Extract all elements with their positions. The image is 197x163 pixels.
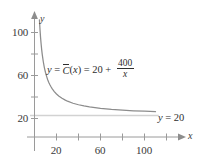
equation-paren-close: ) bbox=[78, 64, 82, 75]
y-tick-label-60: 60 bbox=[2, 70, 28, 81]
asymptote-annotation: y = 20 bbox=[158, 112, 184, 123]
overbar-stroke bbox=[63, 64, 69, 65]
equation-constant: 20 bbox=[92, 64, 103, 75]
equation-equals-1: = bbox=[54, 64, 60, 75]
curve-equation-annotation: y = C ( x ) = 20 + 400 x bbox=[47, 59, 134, 80]
x-axis-label: x bbox=[188, 131, 192, 141]
y-tick-label-20: 20 bbox=[2, 113, 28, 124]
y-axis-label: y bbox=[40, 14, 44, 24]
graph-figure: y x 100 60 20 20 60 100 y = C ( x ) = 20… bbox=[0, 0, 197, 163]
x-tick-label-60: 60 bbox=[88, 145, 112, 156]
x-tick-label-20: 20 bbox=[44, 145, 68, 156]
plot-canvas bbox=[0, 0, 197, 163]
equation-function-name: C bbox=[63, 64, 70, 76]
equation-equals-2: = bbox=[84, 64, 90, 75]
equation-lhs: y bbox=[47, 64, 52, 75]
asymptote-value: 20 bbox=[174, 112, 185, 123]
y-tick-label-100: 100 bbox=[2, 27, 28, 38]
x-axis-arrowhead bbox=[178, 134, 186, 141]
equation-plus: + bbox=[105, 64, 111, 75]
asymptote-equals: = bbox=[165, 112, 171, 123]
fraction-denominator: x bbox=[122, 69, 128, 79]
asymptote-var: y bbox=[158, 112, 163, 123]
function-letter: C bbox=[63, 65, 70, 76]
y-axis-arrowhead bbox=[31, 11, 38, 19]
fraction-numerator: 400 bbox=[117, 59, 133, 69]
equation-fraction: 400 x bbox=[117, 59, 134, 80]
x-tick-label-100: 100 bbox=[132, 145, 156, 156]
